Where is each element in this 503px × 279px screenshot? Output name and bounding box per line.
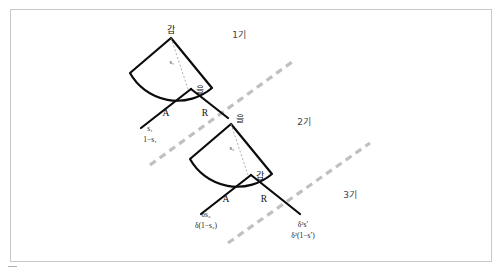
period-label-1: 1기 [232,30,246,40]
payoff-tree-2-accept-bottom: δ(1−s₂) [195,221,218,230]
node-label-tree-1-proposer: 갑 [167,24,175,35]
node-label-tree-2-proposer: 을 [236,114,244,124]
payoff-tree-2-reject-bottom: δ²(1−s′) [291,231,315,240]
edge-tree-2-reject [251,175,300,214]
edge-tree-1-reject [191,89,228,118]
branch-label-tree-1-reject: R [202,108,209,118]
payoff-tree-1-accept-bottom: 1−s₁ [143,135,157,144]
offer-variable-tree-1: s₁ [170,58,175,65]
period-label-2: 2기 [297,117,311,127]
offer-variable-tree-2: s₂ [230,144,235,151]
branch-label-tree-2-reject: R [261,194,268,204]
payoff-tree-1-accept-top: s₁ [147,124,153,133]
payoff-tree-2-accept-top: δs₂ [201,210,210,219]
figure-page: 갑 s₁ 을 A R s₁ 1−s₁ 을 s₂ 갑 A R δs₂ δ(1−s₂… [0,0,503,279]
branch-label-tree-1-accept: A [163,108,170,118]
period-label-3: 3기 [343,190,357,200]
branch-label-tree-2-accept: A [223,194,230,204]
game-tree-diagram: 갑 s₁ 을 A R s₁ 1−s₁ 을 s₂ 갑 A R δs₂ δ(1−s₂… [0,0,503,279]
payoff-tree-2-reject-top: δ²s′ [298,220,309,229]
